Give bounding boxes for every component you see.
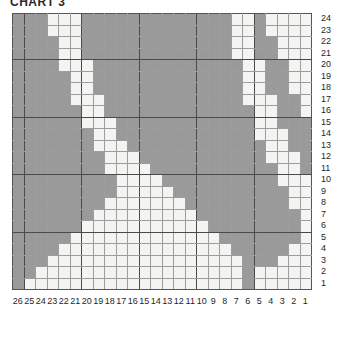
pattern-cell (185, 106, 197, 118)
pattern-cell (220, 140, 232, 152)
pattern-cell (300, 60, 312, 72)
pattern-cell (254, 255, 266, 267)
pattern-cell (174, 71, 186, 83)
pattern-cell (47, 14, 59, 26)
pattern-cell (139, 129, 151, 141)
pattern-cell (254, 163, 266, 175)
column-number-label: 1 (300, 296, 312, 306)
pattern-cell (197, 106, 209, 118)
pattern-cell (151, 244, 163, 256)
pattern-cell (185, 255, 197, 267)
pattern-cell (300, 94, 312, 106)
pattern-cell (82, 94, 94, 106)
pattern-cell (105, 221, 117, 233)
pattern-cell (93, 152, 105, 164)
row-number-label: 17 (321, 94, 343, 106)
row-number-label: 20 (321, 59, 343, 71)
pattern-cell (174, 25, 186, 37)
pattern-cell (300, 186, 312, 198)
pattern-cell (151, 255, 163, 267)
pattern-cell (208, 106, 220, 118)
pattern-cell (70, 117, 82, 129)
pattern-cell (277, 106, 289, 118)
pattern-cell (300, 221, 312, 233)
pattern-cell (277, 163, 289, 175)
pattern-cell (162, 221, 174, 233)
column-number-label: 13 (162, 296, 174, 306)
pattern-cell (220, 94, 232, 106)
pattern-cell (208, 129, 220, 141)
pattern-cell (289, 83, 301, 95)
pattern-cell (128, 117, 140, 129)
pattern-cell (254, 140, 266, 152)
column-number-label: 7 (231, 296, 243, 306)
pattern-cell (59, 106, 71, 118)
column-number-label: 25 (24, 296, 36, 306)
row-number-label: 22 (321, 36, 343, 48)
pattern-cell (128, 71, 140, 83)
pattern-cell (36, 232, 48, 244)
row-number-label: 7 (321, 209, 343, 221)
pattern-cell (151, 186, 163, 198)
pattern-cell (197, 267, 209, 279)
pattern-cell (105, 83, 117, 95)
pattern-cell (208, 83, 220, 95)
pattern-cell (105, 232, 117, 244)
pattern-cell (59, 48, 71, 60)
pattern-cell (254, 48, 266, 60)
pattern-cell (208, 60, 220, 72)
pattern-cell (266, 175, 278, 187)
pattern-cell (289, 198, 301, 210)
pattern-cell (82, 71, 94, 83)
pattern-cell (220, 71, 232, 83)
pattern-cell (220, 60, 232, 72)
pattern-cell (289, 209, 301, 221)
pattern-cell (36, 106, 48, 118)
pattern-cell (231, 37, 243, 49)
pattern-cell (197, 152, 209, 164)
pattern-cell (128, 221, 140, 233)
pattern-cell (162, 60, 174, 72)
pattern-cell (220, 209, 232, 221)
row-number-label: 8 (321, 197, 343, 209)
pattern-cell (36, 175, 48, 187)
pattern-cell (116, 37, 128, 49)
pattern-cell (266, 198, 278, 210)
pattern-cell (47, 255, 59, 267)
pattern-cell (59, 71, 71, 83)
pattern-cell (174, 267, 186, 279)
pattern-cell (82, 14, 94, 26)
pattern-cell (266, 209, 278, 221)
pattern-cell (47, 94, 59, 106)
pattern-cell (231, 267, 243, 279)
row-number-label: 5 (321, 232, 343, 244)
pattern-cell (197, 140, 209, 152)
pattern-cell (13, 94, 25, 106)
pattern-cell (243, 106, 255, 118)
pattern-cell (197, 198, 209, 210)
pattern-cell (128, 267, 140, 279)
pattern-cell (128, 209, 140, 221)
pattern-cell (82, 25, 94, 37)
pattern-cell (197, 244, 209, 256)
pattern-cell (36, 37, 48, 49)
pattern-cell (243, 94, 255, 106)
pattern-cell (59, 209, 71, 221)
pattern-row (13, 221, 312, 233)
pattern-cell (70, 94, 82, 106)
pattern-cell (151, 37, 163, 49)
pattern-cell (289, 48, 301, 60)
pattern-cell (162, 278, 174, 290)
pattern-cell (243, 25, 255, 37)
pattern-cell (36, 48, 48, 60)
pattern-cell (300, 255, 312, 267)
pattern-cell (197, 209, 209, 221)
pattern-cell (185, 71, 197, 83)
pattern-cell (70, 25, 82, 37)
pattern-cell (254, 37, 266, 49)
pattern-cell (70, 278, 82, 290)
pattern-cell (289, 37, 301, 49)
pattern-cell (277, 129, 289, 141)
pattern-cell (36, 278, 48, 290)
pattern-cell (139, 221, 151, 233)
